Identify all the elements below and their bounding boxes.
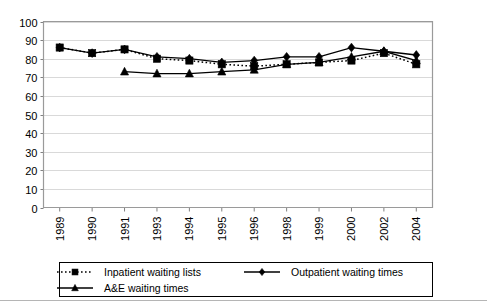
y-axis-tick-label: 0 <box>31 203 37 215</box>
plot-area-border <box>44 22 433 208</box>
y-axis-tick-label: 20 <box>25 165 37 177</box>
data-point-marker <box>348 43 355 52</box>
legend-label: A&E waiting times <box>104 282 189 294</box>
data-point-marker <box>120 67 128 75</box>
gridlines <box>44 23 433 190</box>
x-axis-tick-labels: 1989199019911993199419951996199819992000… <box>54 208 423 241</box>
x-axis-tick-label: 1989 <box>54 217 66 241</box>
y-axis-tick-label: 50 <box>25 110 37 122</box>
y-axis-tick-label: 30 <box>25 147 37 159</box>
data-series <box>56 43 420 77</box>
legend-marker-square <box>72 269 78 275</box>
line-chart: 1009080706050403020100 19891990199119931… <box>0 0 487 306</box>
plot-axes <box>44 22 433 208</box>
x-axis-tick-label: 2004 <box>410 217 422 241</box>
y-axis-tick-label: 40 <box>25 128 37 140</box>
series-line <box>125 51 417 73</box>
x-axis-tick-label: 1996 <box>248 217 260 241</box>
x-axis-tick-label: 2000 <box>345 217 357 241</box>
y-axis-tick-label: 10 <box>25 184 37 196</box>
x-axis-tick-label: 1991 <box>119 217 131 241</box>
x-axis-tick-label: 1999 <box>313 217 325 241</box>
x-axis-tick-label: 1995 <box>216 217 228 241</box>
y-axis-tick-labels: 1009080706050403020100 <box>19 17 43 215</box>
chart-container: 1009080706050403020100 19891990199119931… <box>0 0 487 306</box>
chart-legend: Inpatient waiting listsOutpatient waitin… <box>57 263 433 297</box>
y-axis-tick-label: 60 <box>25 91 37 103</box>
legend-label: Inpatient waiting lists <box>104 266 201 278</box>
x-axis-tick-label: 1998 <box>281 217 293 241</box>
y-axis-tick-label: 70 <box>25 72 37 84</box>
x-axis-tick-label: 1993 <box>151 217 163 241</box>
legend-label: Outpatient waiting times <box>291 266 403 278</box>
x-axis-tick-label: 1990 <box>86 217 98 241</box>
x-axis-tick-label: 1994 <box>183 217 195 241</box>
y-axis-tick-label: 80 <box>25 54 37 66</box>
y-axis-tick-label: 90 <box>25 35 37 47</box>
y-axis-tick-label: 100 <box>19 17 37 29</box>
x-axis-tick-label: 2002 <box>378 217 390 241</box>
